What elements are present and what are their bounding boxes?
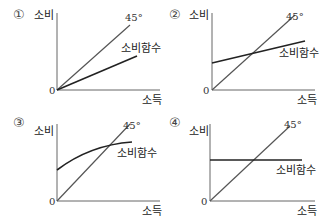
consumption-function-label: 소비함수: [121, 42, 161, 55]
45-degree-label: 45°: [123, 120, 141, 131]
origin-label: 0: [49, 196, 55, 207]
consumption-function-label: 소비함수: [279, 47, 319, 60]
origin-label: 0: [203, 85, 209, 96]
panel-1: ① 소비 45° 소비함수 0 소득: [13, 7, 162, 107]
y-axis-label: 소비: [34, 125, 54, 138]
x-axis-label: 소득: [142, 205, 162, 218]
panel-marker: ④: [169, 115, 181, 130]
y-axis-label: 소비: [34, 9, 54, 22]
origin-label: 0: [49, 85, 55, 96]
consumption-function-label: 소비함수: [276, 164, 316, 177]
y-axis-label: 소비: [189, 9, 209, 22]
y-axis-label: 소비: [189, 125, 209, 138]
panel-marker: ①: [13, 7, 25, 22]
panel-marker: ③: [13, 115, 25, 130]
origin-label: 0: [201, 196, 207, 207]
45-degree-label: 45°: [284, 119, 302, 130]
panel-4: ④ 소비 45° 소비함수 0 소득: [169, 115, 317, 218]
consumption-function-label: 소비함수: [117, 147, 157, 160]
panel-marker: ②: [169, 7, 181, 22]
x-axis-label: 소득: [297, 205, 317, 218]
45-degree-label: 45°: [125, 12, 143, 23]
45-degree-label: 45°: [286, 11, 304, 22]
x-axis-label: 소득: [142, 94, 162, 107]
panel-3: ③ 소비 45° 소비함수 0 소득: [13, 115, 162, 218]
panel-2: ② 소비 45° 소비함수 0 소득: [169, 7, 319, 107]
45-degree-line: [57, 25, 130, 90]
consumption-function-diagrams: ① 소비 45° 소비함수 0 소득 ② 소비 45° 소비함수 0 소득 ③ …: [0, 0, 334, 221]
consumption-function-line: [57, 56, 137, 90]
x-axis-label: 소득: [297, 94, 317, 107]
